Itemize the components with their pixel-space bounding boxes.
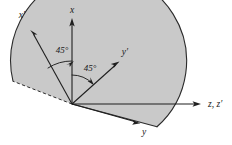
coordinate-axes-diagram: x′ x y′ y z, z′ 45° 45° bbox=[0, 0, 232, 145]
z-axis-label: z, z′ bbox=[207, 99, 223, 109]
y-prime-axis-label: y′ bbox=[121, 47, 129, 57]
x-prime-axis-label: x′ bbox=[18, 10, 26, 20]
shaded-sector-fill bbox=[11, 0, 187, 127]
angle-label-right: 45° bbox=[84, 63, 97, 73]
figure-root: x′ x y′ y z, z′ 45° 45° bbox=[0, 0, 232, 145]
angle-label-left: 45° bbox=[56, 45, 69, 55]
x-axis-label: x bbox=[69, 5, 75, 15]
y-axis-label: y bbox=[141, 127, 147, 137]
